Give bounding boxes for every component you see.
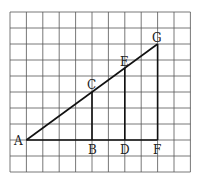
label-d: D: [120, 143, 130, 157]
label-g: G: [152, 31, 162, 45]
label-e: E: [120, 55, 129, 69]
label-a: A: [13, 134, 23, 148]
label-f: F: [153, 143, 161, 157]
grid: [10, 12, 190, 172]
label-b: B: [88, 143, 97, 157]
label-c: C: [87, 78, 96, 92]
similar-triangles-diagram: A B C D E F G: [0, 0, 197, 180]
